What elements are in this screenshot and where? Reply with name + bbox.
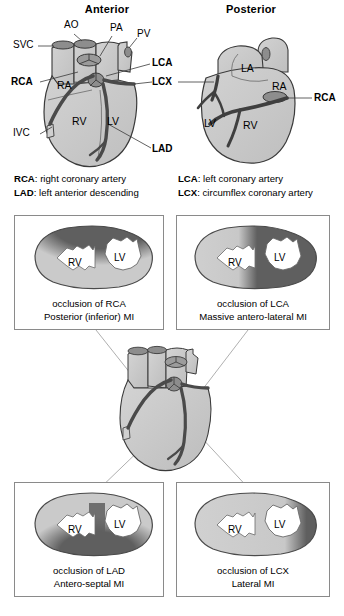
cross-section-diagram-lcx: [177, 483, 331, 561]
cross-section-rca-lv-label: LV: [114, 252, 126, 263]
cross-section-panel-lca: RV LV occlusion of LCA Massive antero-la…: [176, 215, 330, 330]
cross-section-panel-lcx: RV LV occlusion of LCX Lateral MI: [176, 482, 330, 597]
cross-section-lcx-caption-1: occlusion of LCX: [177, 565, 329, 578]
cross-section-rca-rv-label: RV: [68, 257, 82, 268]
cross-section-lad-lv-label: LV: [114, 519, 126, 530]
cross-section-lca-lv-label: LV: [274, 252, 286, 263]
cross-section-panel-lad: RV LV occlusion of LAD Antero-septal MI: [14, 482, 164, 597]
cross-section-lca-caption-2: Massive antero-lateral MI: [177, 311, 329, 324]
cross-section-rca-caption-2: Posterior (inferior) MI: [15, 311, 163, 324]
cardiac-infarct-figure: Anterior Posterior: [0, 0, 344, 616]
cross-section-diagram-rca: [15, 216, 165, 294]
cross-section-lcx-rv-label: RV: [228, 524, 242, 535]
cross-section-lad-rv-label: RV: [68, 524, 82, 535]
cross-section-lad-caption-1: occlusion of LAD: [15, 565, 163, 578]
cross-section-diagram-lca: [177, 216, 331, 294]
cross-section-panel-rca: RV LV occlusion of RCA Posterior (inferi…: [14, 215, 164, 330]
cross-section-lcx-lv-label: LV: [274, 519, 286, 530]
central-heart-illustration: [96, 336, 248, 482]
cross-section-lca-caption-1: occlusion of LCA: [177, 298, 329, 311]
cross-section-lad-caption-2: Antero-septal MI: [15, 578, 163, 591]
cross-section-rca-caption-1: occlusion of RCA: [15, 298, 163, 311]
cross-section-diagram-lad: [15, 483, 165, 561]
cross-section-lca-rv-label: RV: [228, 257, 242, 268]
cross-section-lcx-caption-2: Lateral MI: [177, 578, 329, 591]
